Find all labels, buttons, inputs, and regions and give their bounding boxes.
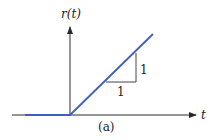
- y-axis-label: r(t): [61, 7, 81, 21]
- slope-run-label: 1: [117, 85, 125, 99]
- x-axis-label: t: [201, 108, 206, 122]
- figure-caption: (a): [98, 120, 115, 134]
- ramp-line: [25, 34, 153, 115]
- ramp-function-diagram: r(t) t 1 1 (a): [0, 0, 216, 140]
- slope-rise-label: 1: [140, 63, 148, 77]
- slope-triangle: [106, 53, 136, 82]
